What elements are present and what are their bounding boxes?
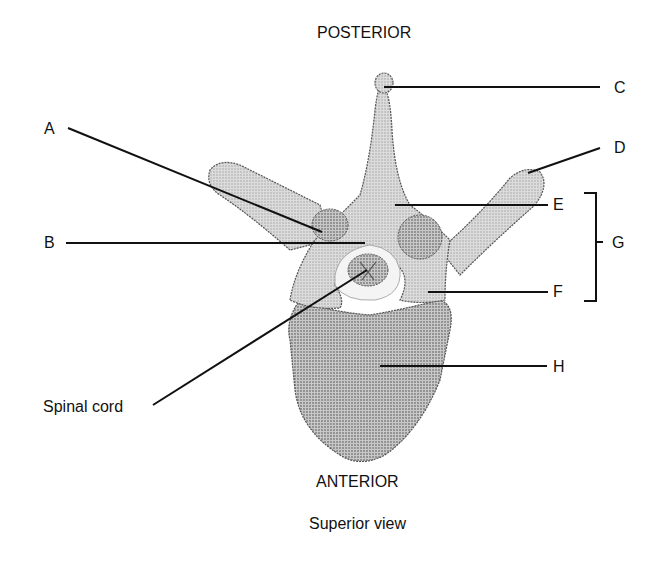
spinal-cord-label: Spinal cord — [43, 399, 123, 415]
leader-line-d — [528, 148, 600, 173]
label-a: A — [44, 121, 55, 137]
spinous-process-tip-shape — [375, 73, 393, 93]
leader-line-a — [68, 128, 322, 232]
label-h: H — [553, 359, 565, 375]
right-transverse-process-shape — [440, 170, 544, 275]
left-articular-facet-shape — [312, 209, 348, 241]
left-transverse-process-shape — [209, 162, 330, 250]
label-f: F — [553, 284, 563, 300]
right-articular-facet-shape — [398, 215, 442, 259]
label-d: D — [614, 140, 626, 156]
label-b: B — [44, 235, 55, 251]
label-e: E — [553, 197, 564, 213]
label-c: C — [614, 80, 626, 96]
spinal-cord-shape — [348, 254, 388, 286]
label-g: G — [612, 235, 624, 251]
bracket-g — [584, 193, 596, 301]
posterior-label: POSTERIOR — [317, 25, 411, 41]
view-caption: Superior view — [309, 516, 406, 532]
anterior-label: ANTERIOR — [316, 474, 399, 490]
vertebral-body-shape — [289, 300, 452, 462]
